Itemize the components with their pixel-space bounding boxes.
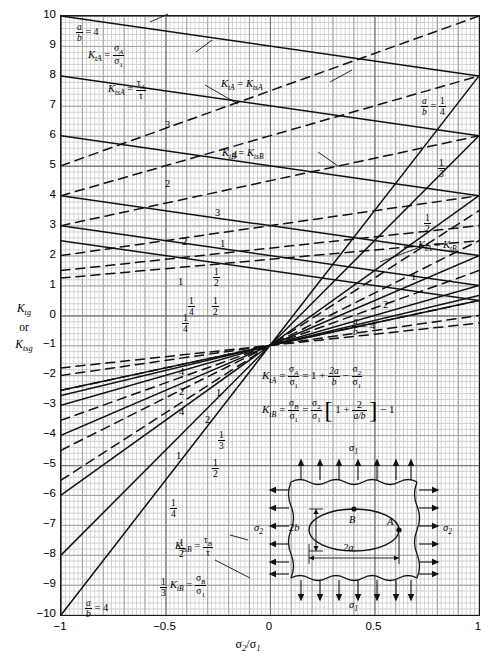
curve-label-18: 12 [212,458,219,480]
series-kta-a-b-2 [61,136,479,196]
annotation-ktsa-definition: KtsA = τA τ [108,78,146,102]
equation-ktb: KtB = σB σ1 = σ2 σ1 [ 1 + 2 a/b ] − 1 [262,398,394,424]
annotation-right-third: 1 3 [438,158,445,180]
annotation-ktb-equals-ktsb: KtB = KtsB [222,147,264,161]
inset-label-sigma1-bottom: σ1 [349,599,358,613]
annotation-kta-definition: KtA = σA σ1 [88,43,124,69]
y-tick-−4: −4 [0,427,56,439]
series-ktsa-a-b-2 [61,136,479,226]
inset-label-2b: 2b [289,522,300,533]
inset-label-sigma2-right: σ2 [443,522,452,536]
x-tick-−0.5: −0.5 [145,620,185,632]
curve-label-7: 2 [182,237,187,248]
x-axis-title: σ2/σ1 [0,637,496,653]
inset-label-point-a: A [387,516,393,527]
y-tick-−9: −9 [0,577,56,589]
inset-label-2a: 2a [343,542,354,553]
y-tick-−5: −5 [0,457,56,469]
chart-page: Ktg or Ktsg 109876543210−1−2−3−4−5−6−7−8… [0,0,496,663]
y-tick-9: 9 [0,38,56,50]
series-kta-a-b-1-4 [61,241,479,301]
ab-fraction-top: a b [76,22,83,44]
curve-label-14: 4 [179,407,184,418]
curve-label-2: 1 [220,239,225,250]
y-tick-0: 0 [0,308,56,320]
y-tick-−1: −1 [0,337,56,349]
curve-label-20: 12 [178,538,185,560]
annotation-kta-equals-ktsa: KtA = KtsA [221,78,263,92]
x-tick-0: 0 [249,620,289,632]
inset-diagram: σ1 σ1 σ2 σ2 2b 2a A B [253,452,478,612]
curve-label-9: 12 [212,296,219,318]
curve-label-1: 2 [165,179,170,190]
y-tick-−8: −8 [0,547,56,559]
annotation-ktb-definition: KtB = σB σ1 [170,573,206,599]
y-tick-8: 8 [0,68,56,80]
annotation-ab-right-quarter: a b = 1 4 [421,96,446,118]
annotation-kta-equals-ktb: KtA = KtB [418,239,457,253]
y-tick-2: 2 [0,248,56,260]
y-tick-4: 4 [0,188,56,200]
curve-label-11: 4 [179,367,184,378]
annotation-right-one: 1 [411,272,416,283]
y-tick-1: 1 [0,278,56,290]
y-tick-−3: −3 [0,397,56,409]
series-ktsb-a-b-1-4 [61,211,479,481]
annotation-ab-bottom-left: a b = 4 [85,598,108,620]
inset-label-sigma1-top: σ1 [349,442,358,456]
curve-label-13: 1 [216,388,221,399]
curve-label-3: 12 [213,267,220,289]
y-tick-3: 3 [0,218,56,230]
inset-label-point-b: B [349,514,355,525]
equation-kta: KtA = σA σ1 = 1 + 2a b − σ2 σ1 [262,364,362,390]
inset-label-sigma2-left: σ2 [254,522,263,536]
y-tick-5: 5 [0,158,56,170]
curve-label-17: 1 [176,451,181,462]
annotation-ab-top-left: a b = 4 [76,22,99,44]
x-tick-−1: −1 [40,620,80,632]
annotation-right-two: 2 [383,300,388,311]
curve-label-5: 4 [232,150,237,161]
x-tick-1: 1 [458,620,496,632]
curve-label-0: 3 [165,120,170,131]
x-tick-0.5: 0.5 [354,620,394,632]
y-axis-title-or: or [2,319,46,336]
curve-label-16: 13 [218,430,225,452]
curve-label-10: 14 [182,313,189,335]
series-ktsa-a-b-1-2 [61,226,479,271]
y-tick-−2: −2 [0,367,56,379]
y-tick-10: 10 [0,8,56,20]
curve-label-12: 2 [179,387,184,398]
y-tick-6: 6 [0,128,56,140]
curve-label-6: 3 [215,208,220,219]
y-tick-−7: −7 [0,517,56,529]
curve-label-8: 1 [178,277,183,288]
curve-label-19: 14 [170,498,177,520]
annotation-ab-bottom-right: a b = 4 [352,316,375,338]
curve-label-21: 13 [160,577,167,599]
curve-label-15: 2 [205,415,210,426]
y-tick-−10: −10 [0,607,56,619]
curve-label-4: 14 [188,296,195,318]
annotation-right-half: 1 2 [424,213,431,235]
y-tick-7: 7 [0,98,56,110]
y-tick-−6: −6 [0,487,56,499]
series-kta-a-b-1-2 [61,226,479,286]
